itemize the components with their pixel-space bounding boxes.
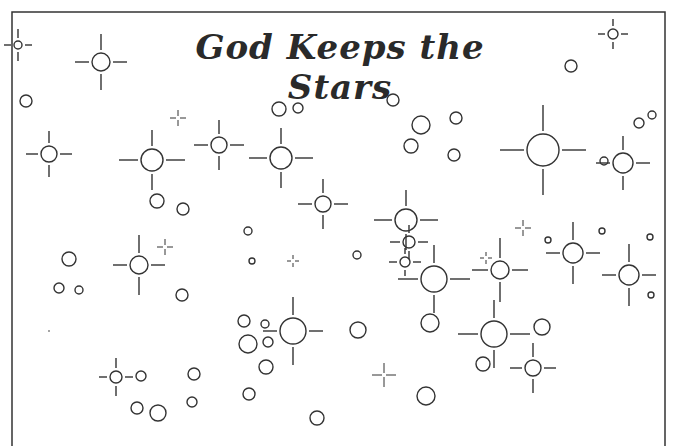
twinkle-star-icon	[4, 29, 32, 61]
circle-star-icon	[648, 292, 654, 298]
circle-star-icon	[350, 322, 366, 338]
dot-mark	[48, 330, 50, 332]
twinkle-star-icon	[390, 225, 428, 259]
twinkle-star-icon	[598, 19, 628, 49]
circle-star-icon	[417, 387, 435, 405]
twinkle-star-icon	[389, 248, 421, 276]
twinkle-star-icon	[26, 131, 72, 177]
page-title: God Keeps the Stars	[150, 27, 530, 107]
circle-star-icon	[448, 149, 460, 161]
twinkle-star-icon	[458, 300, 530, 368]
circle-star-icon	[648, 111, 656, 119]
circle-star-icon	[243, 388, 255, 400]
circle-star-icon	[565, 60, 577, 72]
circle-star-icon	[259, 360, 273, 374]
circle-star-icon	[131, 402, 143, 414]
twinkle-star-icon	[99, 358, 133, 396]
twinkle-star-icon	[374, 190, 438, 250]
twinkle-star-icon	[510, 343, 556, 393]
circle-star-icon	[534, 319, 550, 335]
circle-star-icon	[244, 227, 252, 235]
circle-star-icon	[75, 286, 83, 294]
circle-star-icon	[404, 139, 418, 153]
circle-star-icon	[647, 234, 653, 240]
sparkle-icon	[287, 255, 299, 267]
sparkle-icon	[170, 110, 186, 126]
twinkle-star-icon	[298, 179, 348, 229]
circle-star-icon	[249, 258, 255, 264]
twinkle-star-icon	[75, 34, 127, 90]
circle-star-icon	[20, 95, 32, 107]
circle-star-icon	[600, 157, 608, 165]
circle-star-icon	[136, 371, 146, 381]
circle-star-icon	[177, 203, 189, 215]
twinkle-star-icon	[263, 297, 323, 365]
circle-star-icon	[476, 357, 490, 371]
circle-star-icon	[310, 411, 324, 425]
twinkle-star-icon	[113, 235, 165, 295]
circle-star-icon	[239, 335, 257, 353]
circle-star-icon	[263, 337, 273, 347]
circle-star-icon	[261, 320, 269, 328]
circle-star-icon	[150, 194, 164, 208]
circle-star-icon	[62, 252, 76, 266]
circle-star-icon	[421, 314, 439, 332]
twinkle-star-icon	[546, 222, 600, 284]
circle-star-icon	[634, 118, 644, 128]
circle-star-icon	[412, 116, 430, 134]
coloring-sheet: God Keeps the Stars	[0, 0, 679, 446]
circle-star-icon	[238, 315, 250, 327]
twinkle-star-icon	[500, 105, 586, 195]
twinkle-star-icon	[119, 130, 185, 190]
twinkle-star-icon	[249, 128, 313, 188]
twinkle-star-icon	[472, 238, 528, 302]
circle-star-icon	[450, 112, 462, 124]
circle-star-icon	[188, 368, 200, 380]
sparkle-icon	[372, 363, 396, 387]
circle-star-icon	[54, 283, 64, 293]
twinkle-star-icon	[596, 136, 650, 190]
circle-star-icon	[187, 397, 197, 407]
sparkle-icon	[157, 239, 173, 255]
circle-star-icon	[150, 405, 166, 421]
circle-star-icon	[599, 228, 605, 234]
twinkle-star-icon	[194, 120, 244, 170]
sparkle-icon	[480, 252, 492, 264]
circle-star-icon	[176, 289, 188, 301]
circle-star-icon	[545, 237, 551, 243]
circle-star-icon	[353, 251, 361, 259]
sparkle-icon	[515, 220, 531, 236]
